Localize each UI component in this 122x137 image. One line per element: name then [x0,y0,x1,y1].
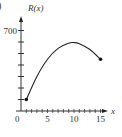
x-axis-label: x [110,106,115,116]
x-axis-arrow-icon [102,109,108,113]
curve-start-point [25,98,29,102]
y-axis-label: R(x) [27,3,44,13]
x-tick-labels: 051015 [15,114,106,124]
chart: 051015 700 R(x) x [0,0,122,137]
y-tick-label: 700 [4,26,18,36]
curve-end-point [99,57,103,61]
x-tick-label: 0 [15,114,20,124]
x-tick-label: 10 [70,114,80,124]
y-axis-arrow-icon [19,16,23,22]
x-tick-label: 5 [45,114,50,124]
y-tick-labels: 700 [4,26,18,36]
revenue-curve [26,42,100,99]
x-tick-label: 15 [96,114,106,124]
